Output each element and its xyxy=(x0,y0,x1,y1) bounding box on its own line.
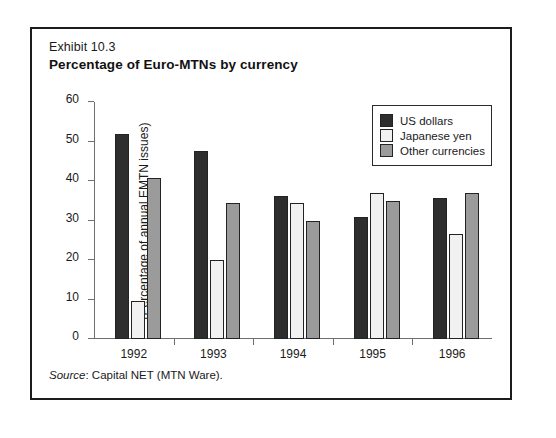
bar-group-1992 xyxy=(115,102,161,339)
y-tick-label-50: 50 xyxy=(66,132,79,146)
y-tick-label-40: 40 xyxy=(66,171,79,185)
bar-1992-other-currencies xyxy=(147,178,161,339)
x-label-1993: 1993 xyxy=(178,347,248,361)
bar-1994-other-currencies xyxy=(306,221,320,340)
x-label-1992: 1992 xyxy=(99,347,169,361)
bar-1995-other-currencies xyxy=(386,201,400,339)
y-tick-label-60: 60 xyxy=(66,92,79,106)
legend-swatch-us-dollars xyxy=(380,114,393,127)
source-note: Source: Capital NET (MTN Ware). xyxy=(49,369,223,381)
y-tick-label-20: 20 xyxy=(66,250,79,264)
page-title: Percentage of Euro-MTNs by currency xyxy=(49,57,298,72)
chart-legend: US dollarsJapanese yenOther currencies xyxy=(372,105,492,166)
source-note-prefix: Source xyxy=(49,369,85,381)
bar-1996-other-currencies xyxy=(465,193,479,339)
x-tick-3 xyxy=(333,339,334,345)
bar-1996-japanese-yen xyxy=(449,234,463,339)
legend-label-2: Other currencies xyxy=(400,145,485,157)
legend-swatch-japanese-yen xyxy=(380,129,393,142)
x-label-1996: 1996 xyxy=(417,347,487,361)
legend-item-japanese-yen: Japanese yen xyxy=(380,129,483,142)
bar-group-1993 xyxy=(194,102,240,339)
y-tick-60: 60 xyxy=(88,101,94,102)
bar-1995-japanese-yen xyxy=(370,193,384,339)
y-tick-label-10: 10 xyxy=(66,290,79,304)
x-label-1994: 1994 xyxy=(258,347,328,361)
y-tick-30: 30 xyxy=(88,220,94,221)
y-tick-label-0: 0 xyxy=(72,329,79,343)
bar-1996-us-dollars xyxy=(433,198,447,339)
y-tick-10: 10 xyxy=(88,299,94,300)
y-tick-20: 20 xyxy=(88,259,94,260)
y-tick-0: 0 xyxy=(88,338,94,339)
x-label-1995: 1995 xyxy=(338,347,408,361)
bar-1993-japanese-yen xyxy=(210,260,224,339)
y-axis-line xyxy=(94,102,95,339)
bar-1992-us-dollars xyxy=(115,134,129,339)
bar-1993-us-dollars xyxy=(194,151,208,339)
legend-label-0: US dollars xyxy=(400,115,453,127)
source-note-text: : Capital NET (MTN Ware). xyxy=(85,369,222,381)
figure-frame: Exhibit 10.3 Percentage of Euro-MTNs by … xyxy=(30,27,512,400)
bar-group-1994 xyxy=(274,102,320,339)
y-tick-50: 50 xyxy=(88,141,94,142)
x-tick-1 xyxy=(174,339,175,345)
x-tick-4 xyxy=(412,339,413,345)
legend-item-other-currencies: Other currencies xyxy=(380,144,483,157)
legend-label-1: Japanese yen xyxy=(400,130,472,142)
bar-1992-japanese-yen xyxy=(131,301,145,339)
legend-item-us-dollars: US dollars xyxy=(380,114,483,127)
bar-1993-other-currencies xyxy=(226,203,240,339)
legend-swatch-other-currencies xyxy=(380,144,393,157)
y-tick-40: 40 xyxy=(88,180,94,181)
bar-1994-us-dollars xyxy=(274,196,288,339)
bar-1994-japanese-yen xyxy=(290,203,304,339)
y-tick-label-30: 30 xyxy=(66,211,79,225)
x-tick-2 xyxy=(253,339,254,345)
exhibit-label: Exhibit 10.3 xyxy=(49,40,116,54)
bar-1995-us-dollars xyxy=(354,217,368,339)
